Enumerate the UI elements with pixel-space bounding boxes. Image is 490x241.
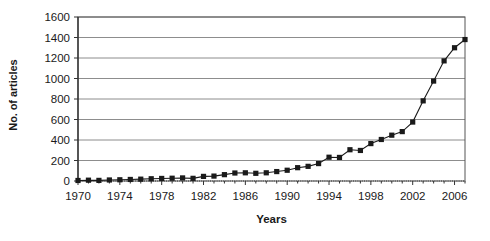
x-axis-tick-label: 1990	[274, 190, 300, 202]
x-axis-tick-label: 2002	[400, 190, 426, 202]
line-chart: No. of articles 160014001200100080060040…	[0, 0, 490, 241]
x-axis-tick-label: 2006	[442, 190, 468, 202]
x-axis-tick-label: 1974	[107, 190, 133, 202]
x-axis-tick-label: 1970	[65, 190, 91, 202]
x-axis-title: Years	[256, 213, 287, 225]
x-axis-tick-label: 1986	[233, 190, 259, 202]
x-axis-tick-label: 1994	[316, 190, 342, 202]
x-axis-tick-labels: 1970197419781982198619901994199820022006	[0, 0, 490, 241]
x-axis-tick-label: 1998	[358, 190, 384, 202]
x-axis-tick-label: 1978	[149, 190, 175, 202]
x-axis-tick-label: 1982	[191, 190, 217, 202]
